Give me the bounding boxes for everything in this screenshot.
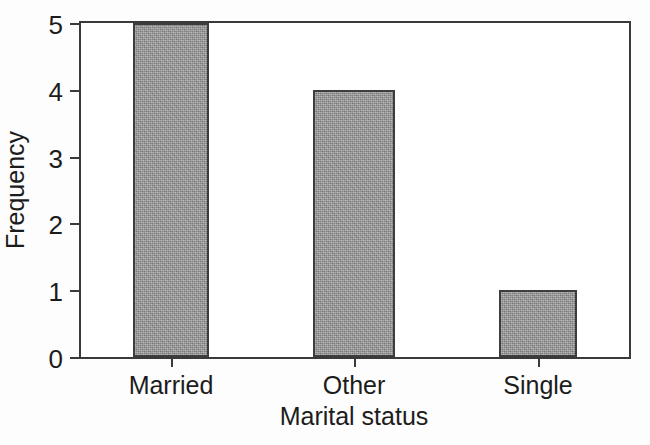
y-tick-label-2: 2: [49, 212, 63, 238]
bar-other[interactable]: [313, 90, 395, 357]
y-tick-2: 2: [70, 223, 81, 225]
y-tick-3: 3: [70, 157, 81, 159]
plot-area: 0 1 2 3 4 5 Married Other Single: [79, 21, 631, 359]
y-tick-label-5: 5: [49, 12, 63, 38]
x-tick-label-single: Single: [503, 373, 573, 398]
bar-married[interactable]: [133, 23, 209, 357]
bar-chart-figure: Frequency 0 1 2 3 4 5 Married Other: [0, 0, 650, 445]
bar-single[interactable]: [499, 290, 577, 357]
y-tick-label-3: 3: [49, 146, 63, 172]
x-tick-married: [171, 357, 173, 367]
y-tick-label-4: 4: [49, 79, 63, 105]
x-tick-single: [538, 357, 540, 367]
x-axis-title: Marital status: [222, 402, 429, 430]
y-tick-label-0: 0: [49, 346, 63, 372]
x-tick-label-married: Married: [129, 373, 214, 398]
y-axis-title: Frequency: [0, 21, 30, 359]
y-tick-label-1: 1: [49, 279, 63, 305]
y-tick-4: 4: [70, 90, 81, 92]
x-tick-label-other: Other: [323, 373, 386, 398]
x-tick-other: [354, 357, 356, 367]
y-tick-0: 0: [70, 357, 81, 359]
y-tick-1: 1: [70, 290, 81, 292]
x-axis-title-wrapper: Marital status: [0, 402, 650, 431]
y-tick-5: 5: [70, 23, 81, 25]
